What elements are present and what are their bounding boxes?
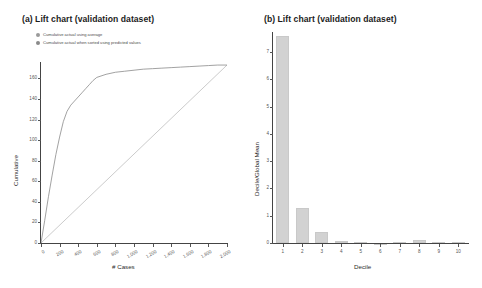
panel-a-y-tick	[38, 202, 41, 203]
panel-a-y-tick	[38, 181, 41, 182]
legend-dot-icon	[36, 41, 40, 45]
panel-a-x-tick-label: 1,800	[197, 249, 213, 261]
panel-a-x-tick	[208, 244, 209, 247]
panel-a-x-axis-title: # Cases	[112, 263, 135, 270]
panel-b-x-tick	[341, 244, 342, 247]
panel-a-y-tick	[38, 161, 41, 162]
series-line-average	[41, 65, 227, 243]
panel-b-x-tick-label: 3	[314, 249, 330, 254]
panel-b-y-tick-label: 7	[256, 49, 269, 54]
panel-b-x-tick	[361, 244, 362, 247]
panel-b-x-tick	[400, 244, 401, 247]
legend-item-label: Cumulative actual when sorted using pred…	[43, 40, 141, 45]
panel-b-y-tick	[270, 243, 273, 244]
panel-b-x-tick-label: 4	[333, 249, 349, 254]
panel-a-plot-area	[41, 63, 227, 243]
panel-a-x-tick-label: 0	[29, 249, 45, 261]
panel-b-y-tick	[270, 161, 273, 162]
panel-b-y-tick-label: 0	[256, 240, 269, 245]
panel-b-x-tick	[380, 244, 381, 247]
panel-b-y-tick	[270, 107, 273, 108]
panel-a-svg	[41, 63, 227, 243]
decile-bar	[296, 208, 309, 243]
panel-b-plot-area	[273, 33, 468, 243]
panel-a-y-tick	[38, 120, 41, 121]
panel-a-x-tick-label: 400	[66, 249, 82, 261]
panel-b-title: (b) Lift chart (validation dataset)	[264, 14, 397, 24]
panel-a-y-tick-label: 20	[21, 219, 37, 224]
panel-b-y-tick	[270, 79, 273, 80]
panel-b-y-tick	[270, 134, 273, 135]
panel-lift-chart-cumulative: (a) Lift chart (validation dataset) Cumu…	[0, 0, 241, 288]
panel-a-y-tick-label: 0	[21, 240, 37, 245]
panel-b-y-tick	[270, 188, 273, 189]
panel-b-x-tick	[283, 244, 284, 247]
panel-b-x-tick-label: 5	[353, 249, 369, 254]
panel-a-x-tick	[115, 244, 116, 247]
panel-b-x-tick-label: 7	[392, 249, 408, 254]
panel-b-x-tick-label: 8	[411, 249, 427, 254]
panel-b-x-tick	[458, 244, 459, 247]
panel-a-x-tick-label: 600	[85, 249, 101, 261]
panel-b-x-tick-label: 9	[431, 249, 447, 254]
panel-b-y-axis-line	[272, 32, 273, 244]
panel-a-y-tick-label: 40	[21, 199, 37, 204]
panel-b-x-tick	[322, 244, 323, 247]
panel-b-y-tick-label: 4	[256, 131, 269, 136]
panel-a-x-tick	[171, 244, 172, 247]
panel-a-y-axis-title: Cumulative	[12, 155, 19, 186]
panel-a-y-tick-label: 100	[21, 137, 37, 142]
panel-a-x-tick-label: 2,000	[215, 249, 231, 261]
decile-bar	[315, 232, 328, 243]
legend-item-label: Cumulative actual using average	[43, 32, 102, 37]
panel-b-x-axis-title: Decile	[354, 263, 371, 270]
panel-b-y-tick-label: 1	[256, 213, 269, 218]
panel-a-y-tick	[38, 222, 41, 223]
panel-b-y-tick-label: 5	[256, 104, 269, 109]
panel-a-x-tick	[97, 244, 98, 247]
panel-b-x-tick	[439, 244, 440, 247]
panel-b-y-tick	[270, 216, 273, 217]
panel-a-x-tick-label: 1,200	[141, 249, 157, 261]
panel-b-x-tick	[419, 244, 420, 247]
panel-a-y-tick-label: 140	[21, 96, 37, 101]
panel-a-x-tick	[153, 244, 154, 247]
panel-a-x-tick	[78, 244, 79, 247]
panel-a-title: (a) Lift chart (validation dataset)	[22, 14, 154, 24]
panel-a-x-tick-label: 1,400	[159, 249, 175, 261]
panel-lift-chart-decile: (b) Lift chart (validation dataset) Deci…	[241, 0, 482, 288]
panel-b-x-tick-label: 6	[372, 249, 388, 254]
panel-a-y-tick	[38, 140, 41, 141]
panel-a-y-tick-label: 80	[21, 158, 37, 163]
panel-b-y-tick-label: 3	[256, 158, 269, 163]
panel-b-y-tick-label: 2	[256, 185, 269, 190]
panel-a-legend: Cumulative actual using average Cumulati…	[36, 31, 141, 47]
panel-a-y-tick-label: 120	[21, 117, 37, 122]
panel-a-x-tick-label: 200	[48, 249, 64, 261]
legend-item: Cumulative actual using average	[36, 31, 141, 38]
panel-a-y-axis-line	[40, 62, 41, 244]
panel-b-x-tick-label: 2	[294, 249, 310, 254]
panel-a-x-tick	[41, 244, 42, 247]
panel-a-x-tick	[190, 244, 191, 247]
panel-a-y-tick-label: 60	[21, 178, 37, 183]
legend-dot-icon	[36, 33, 40, 37]
panel-a-y-tick	[38, 78, 41, 79]
figure-container: (a) Lift chart (validation dataset) Cumu…	[0, 0, 482, 288]
panel-a-y-tick	[38, 99, 41, 100]
panel-a-x-tick-label: 1,000	[122, 249, 138, 261]
legend-item: Cumulative actual when sorted using pred…	[36, 39, 141, 46]
panel-b-x-tick	[302, 244, 303, 247]
panel-b-y-tick-label: 6	[256, 76, 269, 81]
panel-a-x-tick	[60, 244, 61, 247]
panel-a-x-tick-label: 1,600	[178, 249, 194, 261]
decile-bar	[276, 36, 289, 243]
panel-a-x-tick	[227, 244, 228, 247]
panel-b-x-tick-label: 10	[450, 249, 466, 254]
panel-a-y-tick-label: 160	[21, 75, 37, 80]
panel-a-x-tick	[134, 244, 135, 247]
panel-b-x-tick-label: 1	[275, 249, 291, 254]
panel-b-y-tick	[270, 52, 273, 53]
panel-a-x-tick-label: 800	[104, 249, 120, 261]
